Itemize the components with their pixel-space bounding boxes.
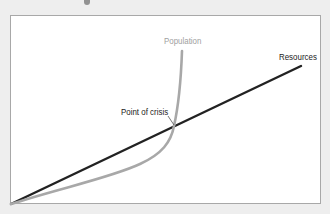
point-of-crisis-label: Point of crisis xyxy=(121,107,168,117)
chart-page: Population Resources Point of crisis xyxy=(0,0,330,214)
population-label: Population xyxy=(164,36,201,46)
crisis-leader-line xyxy=(168,116,174,125)
population-curve xyxy=(11,51,182,204)
resources-line xyxy=(11,66,301,204)
resources-label: Resources xyxy=(279,52,317,62)
